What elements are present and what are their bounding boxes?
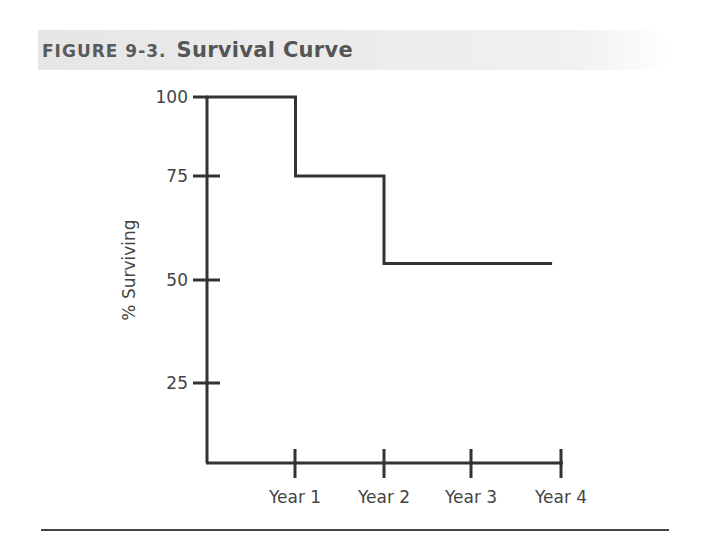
y-axis-title: % Surviving [119, 219, 139, 320]
survival-chart: % Surviving 100 75 50 25 Year 1 Year 2 Y… [0, 0, 702, 560]
x-tick-label-year-2: Year 2 [357, 487, 410, 507]
y-tick-label-25: 25 [166, 373, 188, 393]
y-tick-labels: 100 75 50 25 [156, 87, 188, 393]
y-tick-label-100: 100 [156, 87, 188, 107]
bottom-divider [41, 529, 669, 531]
y-tick-label-50: 50 [166, 270, 188, 290]
x-tick-label-year-4: Year 4 [534, 487, 587, 507]
survival-curve-line [207, 97, 552, 263]
x-tick-labels: Year 1 Year 2 Year 3 Year 4 [268, 487, 587, 507]
x-tick-label-year-3: Year 3 [444, 487, 497, 507]
x-tick-label-year-1: Year 1 [268, 487, 321, 507]
y-tick-label-75: 75 [166, 166, 188, 186]
